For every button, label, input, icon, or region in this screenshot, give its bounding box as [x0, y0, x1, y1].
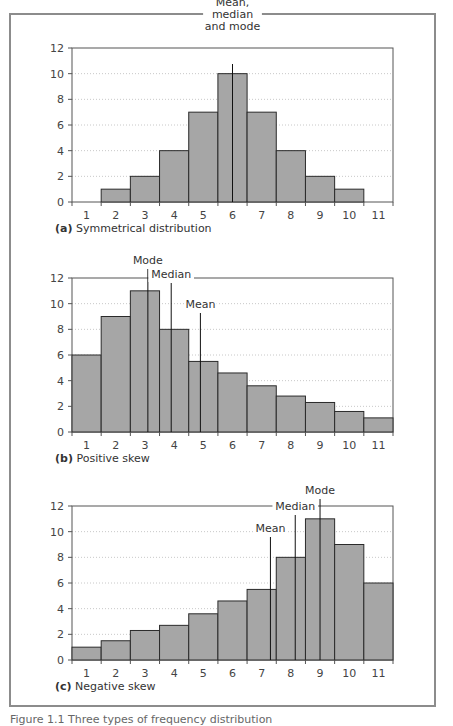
- x-tick-label: 2: [112, 209, 119, 222]
- x-tick-label: 2: [112, 439, 119, 452]
- y-tick-label: 12: [50, 500, 64, 513]
- annotation-label-median: Median: [151, 268, 191, 281]
- annotation-label-mean-median-and-mode: and mode: [205, 20, 261, 33]
- y-tick-label: 0: [57, 426, 64, 439]
- x-tick-label: 11: [371, 667, 385, 680]
- x-tick-label: 3: [141, 439, 148, 452]
- x-tick-label: 10: [342, 667, 356, 680]
- chart-negative-skew: 0246810121234567891011MeanMedianMode: [0, 458, 453, 698]
- x-tick-label: 11: [371, 439, 385, 452]
- y-tick-label: 8: [57, 323, 64, 336]
- histogram-bar: [335, 189, 364, 202]
- histogram-bar: [364, 418, 393, 432]
- y-tick-label: 2: [57, 170, 64, 183]
- y-tick-label: 12: [50, 42, 64, 55]
- panel-caption-c: (c) Negative skew: [55, 680, 155, 693]
- histogram-bar: [276, 557, 305, 660]
- histogram-bar: [189, 614, 218, 660]
- y-tick-label: 4: [57, 603, 64, 616]
- histogram-bar: [247, 589, 276, 660]
- x-tick-label: 10: [342, 439, 356, 452]
- x-tick-label: 4: [171, 209, 178, 222]
- x-tick-label: 1: [83, 209, 90, 222]
- x-tick-label: 5: [200, 209, 207, 222]
- histogram-bar: [276, 396, 305, 432]
- x-tick-label: 7: [258, 667, 265, 680]
- histogram-bar: [305, 402, 334, 432]
- chart-positive-skew: 0246810121234567891011ModeMedianMean: [0, 230, 453, 470]
- x-tick-label: 9: [317, 209, 324, 222]
- y-tick-label: 12: [50, 272, 64, 285]
- histogram-bar: [160, 625, 189, 660]
- annotation-label-mean: Mean: [255, 522, 285, 535]
- y-tick-label: 4: [57, 375, 64, 388]
- histogram-bar: [247, 386, 276, 432]
- x-tick-label: 8: [287, 439, 294, 452]
- histogram-bar: [276, 151, 305, 202]
- x-tick-label: 6: [229, 439, 236, 452]
- y-tick-label: 8: [57, 551, 64, 564]
- x-tick-label: 8: [287, 209, 294, 222]
- y-tick-label: 10: [50, 298, 64, 311]
- annotation-label-median: Median: [275, 500, 315, 513]
- x-tick-label: 3: [141, 667, 148, 680]
- histogram-bar: [335, 545, 364, 661]
- annotation-label-mode: Mode: [305, 484, 335, 497]
- y-tick-label: 10: [50, 68, 64, 81]
- panel-title: Negative skew: [75, 680, 155, 693]
- histogram-bar: [101, 641, 130, 660]
- y-tick-label: 2: [57, 400, 64, 413]
- x-tick-label: 5: [200, 667, 207, 680]
- x-tick-label: 4: [171, 667, 178, 680]
- histogram-bar: [130, 176, 159, 202]
- histogram-bar: [189, 112, 218, 202]
- y-tick-label: 2: [57, 628, 64, 641]
- histogram-bar: [130, 630, 159, 660]
- x-tick-label: 6: [229, 667, 236, 680]
- x-tick-label: 7: [258, 209, 265, 222]
- histogram-bar: [247, 112, 276, 202]
- histogram-bar: [130, 291, 159, 432]
- histogram-bar: [218, 601, 247, 660]
- x-tick-label: 5: [200, 439, 207, 452]
- histogram-bar: [305, 176, 334, 202]
- histogram-bar: [335, 411, 364, 432]
- y-tick-label: 6: [57, 119, 64, 132]
- histogram-bar: [160, 329, 189, 432]
- x-tick-label: 7: [258, 439, 265, 452]
- histogram-bar: [189, 361, 218, 432]
- y-tick-label: 6: [57, 577, 64, 590]
- histogram-bar: [160, 151, 189, 202]
- x-tick-label: 9: [317, 439, 324, 452]
- y-tick-label: 8: [57, 93, 64, 106]
- figure-caption: Figure 1.1 Three types of frequency dist…: [10, 713, 272, 726]
- histogram-bar: [364, 583, 393, 660]
- x-tick-label: 6: [229, 209, 236, 222]
- x-tick-label: 2: [112, 667, 119, 680]
- y-tick-label: 10: [50, 526, 64, 539]
- annotation-label-mean: Mean: [185, 298, 215, 311]
- histogram-bar: [101, 317, 130, 433]
- x-tick-label: 1: [83, 439, 90, 452]
- y-tick-label: 4: [57, 145, 64, 158]
- histogram-bar: [218, 373, 247, 432]
- histogram-bar: [72, 355, 101, 432]
- annotation-label-mode: Mode: [133, 254, 163, 267]
- y-tick-label: 6: [57, 349, 64, 362]
- histogram-bar: [101, 189, 130, 202]
- x-tick-label: 11: [371, 209, 385, 222]
- chart-symmetrical-distribution: 0246810121234567891011Mean,medianand mod…: [0, 0, 453, 240]
- x-tick-label: 3: [141, 209, 148, 222]
- x-tick-label: 9: [317, 667, 324, 680]
- panel-label: (c): [55, 680, 72, 693]
- x-tick-label: 1: [83, 667, 90, 680]
- histogram-bar: [72, 647, 101, 660]
- y-tick-label: 0: [57, 654, 64, 667]
- y-tick-label: 0: [57, 196, 64, 209]
- x-tick-label: 8: [287, 667, 294, 680]
- x-tick-label: 10: [342, 209, 356, 222]
- x-tick-label: 4: [171, 439, 178, 452]
